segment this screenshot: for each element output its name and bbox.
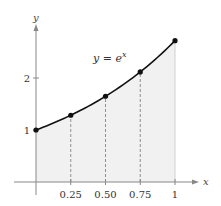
x-tick-label: 1 <box>172 189 178 200</box>
x-tick-label: 0.75 <box>129 189 151 200</box>
chart: xy0.250.500.75112y = ex <box>0 0 221 206</box>
data-point <box>138 69 143 74</box>
data-point <box>172 38 177 43</box>
y-tick-label: 1 <box>24 125 30 136</box>
y-tick-label: 2 <box>24 73 30 84</box>
data-point <box>68 113 73 118</box>
data-point <box>33 127 38 132</box>
y-axis-arrow-icon <box>34 24 39 31</box>
x-axis-arrow-icon <box>192 180 199 185</box>
data-point <box>103 94 108 99</box>
x-tick-label: 0.25 <box>60 189 82 200</box>
x-tick-label: 0.50 <box>94 189 116 200</box>
y-axis-label: y <box>32 12 39 23</box>
function-label: y = ex <box>92 50 127 65</box>
x-axis-label: x <box>203 176 209 187</box>
